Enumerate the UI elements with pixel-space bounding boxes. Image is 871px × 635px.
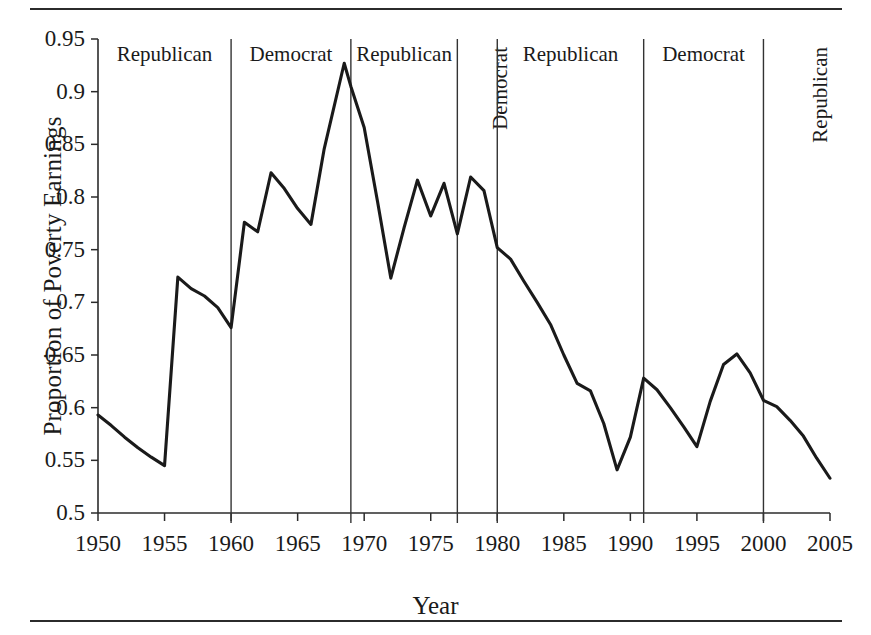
- plot-canvas: [0, 0, 871, 635]
- data-series-line: [98, 63, 830, 478]
- poverty-earnings-line-chart: Proportion of Poverty Earnings Year 0.50…: [0, 0, 871, 635]
